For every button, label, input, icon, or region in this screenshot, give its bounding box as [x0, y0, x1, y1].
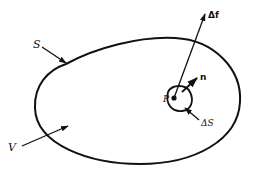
point-label: P: [162, 94, 170, 104]
area-element-pointer-arrow: [185, 108, 199, 120]
volume-pointer-arrow: [22, 126, 68, 146]
force-label: Δf: [208, 10, 219, 20]
area-element-curve: [167, 86, 192, 111]
surface-label: S: [33, 38, 41, 51]
normal-label: n: [200, 72, 206, 82]
area-element-label: ΔS: [200, 118, 214, 128]
surface-volume-diagram: S V P Δf n ΔS: [0, 0, 253, 176]
surface-pointer-arrow: [42, 47, 66, 63]
volume-label: V: [8, 141, 17, 154]
surface-boundary-curve: [35, 38, 240, 164]
